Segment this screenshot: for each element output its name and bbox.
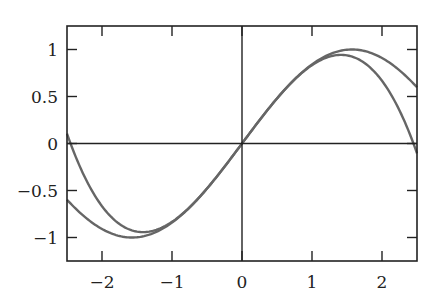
- y-tick-label: −1: [33, 228, 58, 248]
- reference-lines: [67, 26, 417, 261]
- x-tick-label: 2: [377, 272, 388, 292]
- y-tick-label: 1: [47, 40, 58, 60]
- y-tick-label: 0: [47, 134, 58, 154]
- x-tick-label: 0: [237, 272, 248, 292]
- y-tick-label: −0.5: [17, 181, 58, 201]
- x-tick-label: 1: [307, 272, 318, 292]
- x-tick-label: −1: [159, 272, 184, 292]
- x-axis-ticks: −2−1012: [89, 26, 387, 292]
- y-tick-label: 0.5: [31, 87, 58, 107]
- chart: −2−1012 10.50−0.5−1: [0, 0, 442, 301]
- x-tick-label: −2: [89, 272, 114, 292]
